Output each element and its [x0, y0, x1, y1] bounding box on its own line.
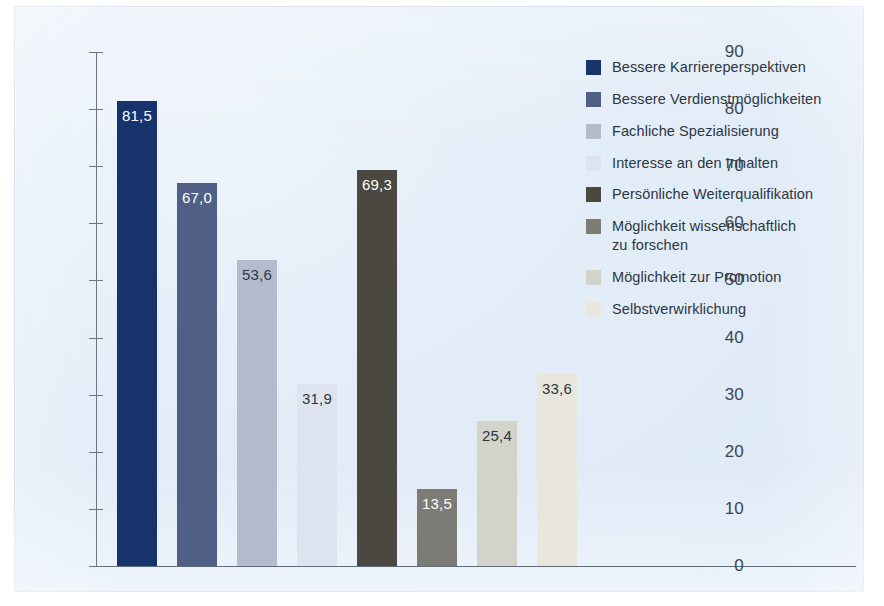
- legend-item-label: Möglichkeit zur Promotion: [612, 268, 781, 287]
- y-axis-tick: [89, 452, 103, 453]
- bar-value-label: 81,5: [117, 107, 157, 124]
- legend-item: Persönliche Weiterqualifikation: [586, 185, 856, 204]
- legend-swatch-icon: [586, 124, 601, 139]
- bar: 81,5: [117, 101, 157, 566]
- y-axis-tick-label: 10: [704, 499, 744, 519]
- bar: 53,6: [237, 260, 277, 566]
- bar: 69,3: [357, 170, 397, 566]
- legend-swatch-icon: [586, 156, 601, 171]
- legend-item: Möglichkeit wissenschaftlich zu forschen: [586, 217, 856, 255]
- y-axis-tick: [89, 395, 103, 396]
- bar-value-label: 13,5: [417, 495, 457, 512]
- y-axis-tick: [89, 109, 103, 110]
- legend-item: Selbstverwirklichung: [586, 300, 856, 319]
- legend-item-label: Interesse an den Inhalten: [612, 154, 778, 173]
- y-axis-tick: [89, 166, 103, 167]
- legend-swatch-icon: [586, 302, 601, 317]
- chart-figure: 9080706050403020100 81,567,053,631,969,3…: [0, 0, 884, 606]
- y-axis-tick-label: 30: [704, 385, 744, 405]
- legend-swatch-icon: [586, 92, 601, 107]
- legend-swatch-icon: [586, 187, 601, 202]
- y-axis-tick-label: 0: [704, 556, 744, 576]
- bar-value-label: 33,6: [537, 380, 577, 397]
- y-axis-tick: [89, 280, 103, 281]
- y-axis-tick: [89, 509, 103, 510]
- bar-value-label: 67,0: [177, 189, 217, 206]
- bar: 33,6: [537, 374, 577, 566]
- legend-item-label: Fachliche Spezialisierung: [612, 122, 779, 141]
- legend-item-label: Persönliche Weiterqualifikation: [612, 185, 813, 204]
- legend-swatch-icon: [586, 60, 601, 75]
- y-axis-tick-label: 20: [704, 442, 744, 462]
- bar-value-label: 25,4: [477, 427, 517, 444]
- legend-item-label: Selbstverwirklichung: [612, 300, 746, 319]
- legend-item: Möglichkeit zur Promotion: [586, 268, 856, 287]
- legend-item-label: Bessere Verdienstmöglichkeiten: [612, 90, 821, 109]
- legend-item: Interesse an den Inhalten: [586, 154, 856, 173]
- bar-value-label: 31,9: [297, 390, 337, 407]
- bar-value-label: 69,3: [357, 176, 397, 193]
- chart-legend: Bessere KarriereperspektivenBessere Verd…: [586, 58, 856, 332]
- y-axis-tick: [89, 52, 103, 53]
- legend-item-label: Bessere Karriereperspektiven: [612, 58, 806, 77]
- bar-value-label: 53,6: [237, 266, 277, 283]
- legend-item-label: Möglichkeit wissenschaftlich zu forschen: [612, 217, 796, 255]
- legend-swatch-icon: [586, 270, 601, 285]
- legend-item: Bessere Karriereperspektiven: [586, 58, 856, 77]
- bar: 13,5: [417, 489, 457, 566]
- y-axis-tick: [89, 338, 103, 339]
- y-axis-tick: [89, 566, 103, 567]
- bar: 67,0: [177, 183, 217, 566]
- y-axis-line: [96, 52, 97, 566]
- legend-item: Bessere Verdienstmöglichkeiten: [586, 90, 856, 109]
- bar: 31,9: [297, 384, 337, 566]
- legend-item: Fachliche Spezialisierung: [586, 122, 856, 141]
- legend-swatch-icon: [586, 219, 601, 234]
- bar: 25,4: [477, 421, 517, 566]
- y-axis-tick: [89, 223, 103, 224]
